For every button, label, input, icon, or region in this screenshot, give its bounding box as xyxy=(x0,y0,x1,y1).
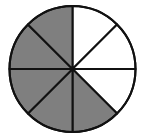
fraction-circle xyxy=(0,0,144,138)
